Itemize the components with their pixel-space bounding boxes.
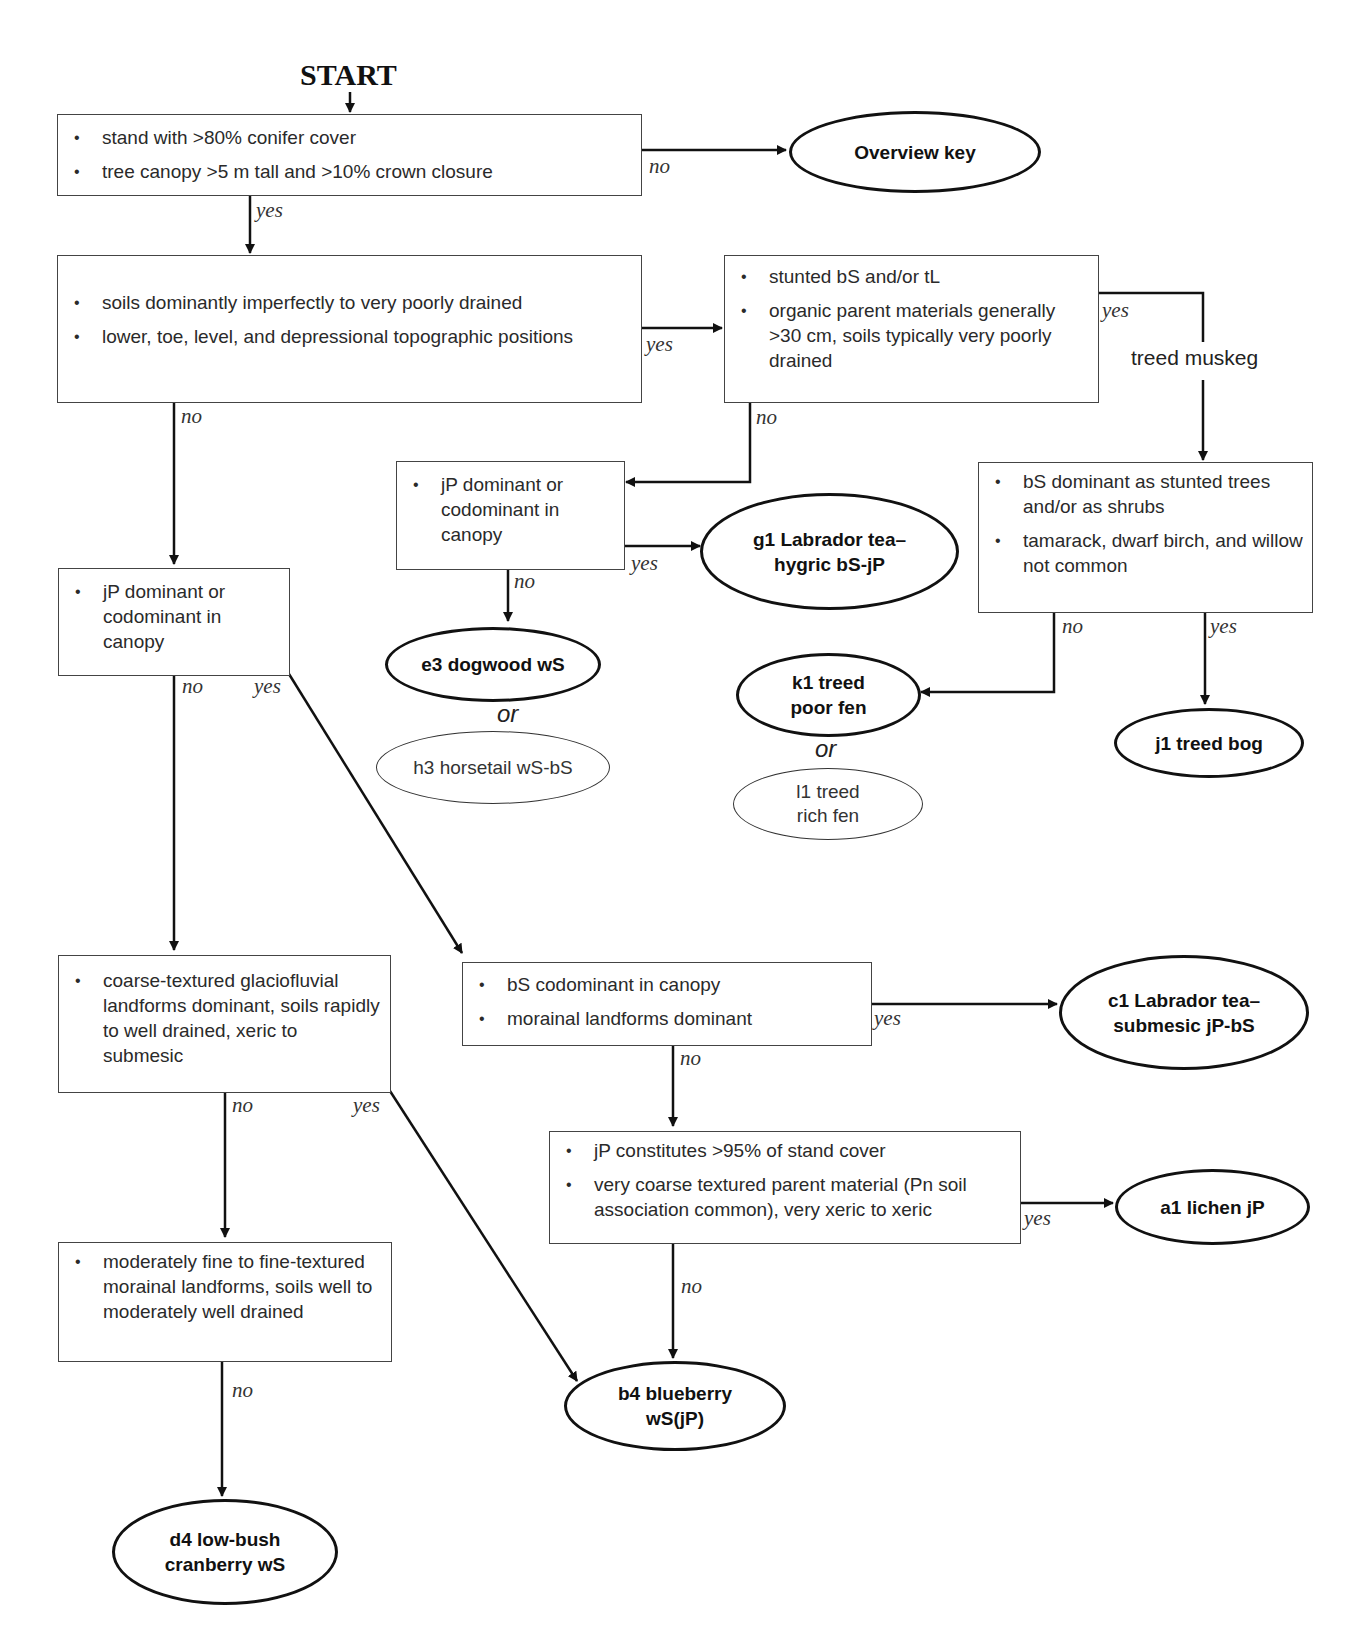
criterion: stunted bS and/or tL — [725, 264, 1090, 289]
decision-bs-stunted: bS dominant as stunted trees and/or as s… — [978, 462, 1313, 613]
label-yes: yes — [353, 1093, 380, 1118]
label-no: no — [756, 405, 777, 430]
label-no: no — [514, 569, 535, 594]
label-yes: yes — [1210, 614, 1237, 639]
decision-stunted-organic: stunted bS and/or tL organic parent mate… — [724, 255, 1099, 403]
label-no: no — [649, 154, 670, 179]
treed-muskeg-label: treed muskeg — [1131, 346, 1258, 370]
criterion: bS codominant in canopy — [463, 972, 871, 997]
label-yes: yes — [1024, 1206, 1051, 1231]
criterion: stand with >80% conifer cover — [58, 125, 641, 150]
label-no: no — [1062, 614, 1083, 639]
label-no: no — [232, 1093, 253, 1118]
or-label: or — [815, 735, 836, 763]
outcome-k1[interactable]: k1 treed poor fen — [736, 653, 921, 737]
criterion: organic parent materials generally >30 c… — [725, 298, 1090, 373]
label-yes: yes — [1102, 298, 1129, 323]
criterion: jP constitutes >95% of stand cover — [550, 1138, 1012, 1163]
outcome-h3[interactable]: h3 horsetail wS-bS — [376, 731, 610, 804]
outcome-l1[interactable]: l1 treed rich fen — [733, 768, 923, 840]
label-yes: yes — [874, 1006, 901, 1031]
or-label: or — [497, 700, 518, 728]
outcome-c1[interactable]: c1 Labrador tea– submesic jP-bS — [1059, 955, 1309, 1070]
start-label: START — [300, 58, 397, 92]
criterion: morainal landforms dominant — [463, 1006, 871, 1031]
outcome-e3[interactable]: e3 dogwood wS — [385, 627, 601, 702]
criterion: lower, toe, level, and depressional topo… — [58, 324, 641, 349]
criterion: jP dominant or codominant in canopy — [59, 579, 281, 654]
criterion: tamarack, dwarf birch, and willow not co… — [979, 528, 1304, 578]
outcome-a1[interactable]: a1 lichen jP — [1115, 1169, 1310, 1245]
label-yes: yes — [631, 551, 658, 576]
decision-bs-codominant: bS codominant in canopy morainal landfor… — [462, 962, 872, 1046]
label-yes: yes — [256, 198, 283, 223]
label-no: no — [680, 1046, 701, 1071]
criterion: jP dominant or codominant in canopy — [397, 472, 616, 547]
criterion: coarse-textured glaciofluvial landforms … — [59, 968, 382, 1068]
outcome-d4[interactable]: d4 low-bush cranberry wS — [112, 1499, 338, 1605]
decision-jp-dominant-wet: jP dominant or codominant in canopy — [396, 461, 625, 570]
label-no: no — [182, 674, 203, 699]
decision-jp-dominant-dry: jP dominant or codominant in canopy — [58, 568, 290, 676]
outcome-g1[interactable]: g1 Labrador tea– hygric bS-jP — [700, 493, 959, 610]
criterion: very coarse textured parent material (Pn… — [550, 1172, 1012, 1222]
criterion: moderately fine to fine-textured moraina… — [59, 1249, 383, 1324]
criterion: soils dominantly imperfectly to very poo… — [58, 290, 641, 315]
outcome-b4[interactable]: b4 blueberry wS(jP) — [564, 1361, 786, 1451]
criterion: bS dominant as stunted trees and/or as s… — [979, 469, 1304, 519]
decision-conifer-cover: stand with >80% conifer cover tree canop… — [57, 114, 642, 196]
decision-soil-drainage: soils dominantly imperfectly to very poo… — [57, 255, 642, 403]
label-no: no — [681, 1274, 702, 1299]
criterion: tree canopy >5 m tall and >10% crown clo… — [58, 159, 641, 184]
decision-glaciofluvial: coarse-textured glaciofluvial landforms … — [58, 955, 391, 1093]
decision-morainal-fine: moderately fine to fine-textured moraina… — [58, 1242, 392, 1362]
outcome-overview-key[interactable]: Overview key — [789, 111, 1041, 193]
label-no: no — [232, 1378, 253, 1403]
label-yes: yes — [646, 332, 673, 357]
decision-jp-95-percent: jP constitutes >95% of stand cover very … — [549, 1131, 1021, 1244]
outcome-j1[interactable]: j1 treed bog — [1114, 708, 1304, 778]
label-yes: yes — [254, 674, 281, 699]
label-no: no — [181, 404, 202, 429]
